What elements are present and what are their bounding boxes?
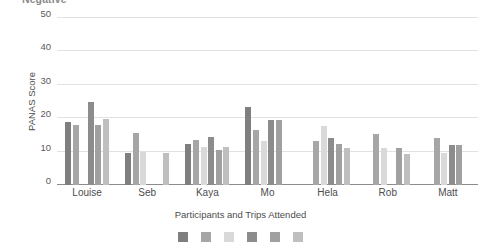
chart-legend — [0, 232, 481, 242]
bar[interactable] — [253, 130, 259, 185]
y-tick-label: 50 — [40, 8, 51, 19]
legend-swatch[interactable] — [224, 232, 234, 242]
y-tick-label: 30 — [40, 74, 51, 85]
bar[interactable] — [396, 148, 402, 185]
bar[interactable] — [373, 134, 379, 185]
bar-group — [57, 18, 117, 185]
plot-area — [57, 18, 478, 185]
category-label: Kaya — [196, 187, 219, 198]
legend-swatch[interactable] — [178, 232, 188, 242]
bar[interactable] — [163, 153, 169, 185]
legend-swatch[interactable] — [293, 232, 303, 242]
bar[interactable] — [223, 147, 229, 185]
bar-group — [237, 18, 297, 185]
category-label: Mo — [261, 187, 275, 198]
bar[interactable] — [73, 125, 79, 185]
y-tick-label: 10 — [40, 141, 51, 152]
bar[interactable] — [208, 137, 214, 185]
category-label: Rob — [379, 187, 397, 198]
category-label: Seb — [138, 187, 156, 198]
bar[interactable] — [245, 107, 251, 185]
bar-chart: Negative PANAS Score 01020304050 LouiseS… — [0, 0, 481, 247]
bar-group — [117, 18, 177, 185]
legend-swatch[interactable] — [270, 232, 280, 242]
bar[interactable] — [125, 153, 131, 185]
bar[interactable] — [313, 141, 319, 185]
bar-group — [177, 18, 237, 185]
bar[interactable] — [336, 144, 342, 185]
bar[interactable] — [216, 150, 222, 185]
bar[interactable] — [193, 140, 199, 185]
x-axis-title: Participants and Trips Attended — [0, 209, 481, 220]
y-axis-tick-labels: 01020304050 — [0, 18, 55, 185]
y-tick-label: 40 — [40, 41, 51, 52]
bar[interactable] — [404, 154, 410, 185]
bar[interactable] — [185, 144, 191, 185]
legend-swatch[interactable] — [247, 232, 257, 242]
bar[interactable] — [95, 125, 101, 185]
bar[interactable] — [103, 119, 109, 185]
bar[interactable] — [321, 126, 327, 185]
category-label: Hela — [317, 187, 338, 198]
bar-group — [358, 18, 418, 185]
category-label: Louise — [72, 187, 101, 198]
category-label: Matt — [438, 187, 457, 198]
bar[interactable] — [276, 120, 282, 185]
bar[interactable] — [88, 102, 94, 185]
bar[interactable] — [201, 147, 207, 185]
y-tick-label: 20 — [40, 108, 51, 119]
bar-group — [298, 18, 358, 185]
bar[interactable] — [328, 138, 334, 185]
bar[interactable] — [434, 138, 440, 185]
bar[interactable] — [268, 120, 274, 185]
x-axis-category-labels: LouiseSebKayaMoHelaRobMatt — [57, 187, 478, 203]
bar[interactable] — [344, 148, 350, 185]
bar[interactable] — [441, 153, 447, 185]
bar[interactable] — [449, 145, 455, 185]
bar[interactable] — [456, 145, 462, 185]
chart-title: Negative — [22, 0, 67, 5]
bar[interactable] — [65, 122, 71, 185]
bar[interactable] — [261, 141, 267, 185]
bar[interactable] — [381, 148, 387, 185]
y-tick-label: 0 — [46, 175, 51, 186]
bar-group — [418, 18, 478, 185]
bar[interactable] — [133, 133, 139, 185]
bar[interactable] — [140, 152, 146, 185]
legend-swatch[interactable] — [201, 232, 211, 242]
